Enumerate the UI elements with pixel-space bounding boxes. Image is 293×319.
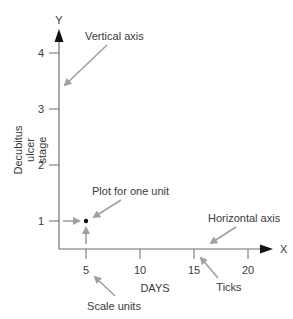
x-tick-label-10: 10 <box>134 264 146 276</box>
y-axis-letter: Y <box>55 14 63 26</box>
svg-text:Decubitus: Decubitus <box>12 125 24 174</box>
x-ticks <box>86 249 248 259</box>
x-axis-letter: X <box>280 243 288 255</box>
y-tick-label-1: 1 <box>38 215 44 227</box>
annotation-vertical-axis: Vertical axis <box>85 30 144 42</box>
annotation-arrow-ticks <box>201 258 218 278</box>
y-tick-label-3: 3 <box>38 103 44 115</box>
x-tick-label-5: 5 <box>83 264 89 276</box>
annotation-horizontal-axis: Horizontal axis <box>208 212 281 224</box>
axes-diagram: Y X 1 2 3 4 5 10 15 20 Decubitus ulcer s… <box>0 0 293 319</box>
x-tick-label-20: 20 <box>242 264 254 276</box>
annotation-ticks: Ticks <box>216 281 242 293</box>
annotation-arrow-vertical-axis <box>65 45 107 85</box>
annotation-scale-units: Scale units <box>87 300 141 312</box>
svg-text:stage: stage <box>36 137 48 164</box>
x-tick-label-15: 15 <box>188 264 200 276</box>
svg-text:ulcer: ulcer <box>24 138 36 162</box>
annotation-plot-for-one-unit: Plot for one unit <box>92 185 169 197</box>
data-point <box>84 219 88 223</box>
x-axis-arrowhead-icon <box>260 245 273 254</box>
y-tick-label-4: 4 <box>38 47 44 59</box>
annotation-arrow-horizontal-axis <box>211 227 236 243</box>
annotation-arrow-scale-units <box>95 277 115 296</box>
x-axis-title: DAYS <box>140 282 169 294</box>
y-ticks <box>49 53 59 221</box>
annotation-arrow-plot-point <box>94 200 121 217</box>
y-axis-arrowhead-icon <box>55 29 64 42</box>
